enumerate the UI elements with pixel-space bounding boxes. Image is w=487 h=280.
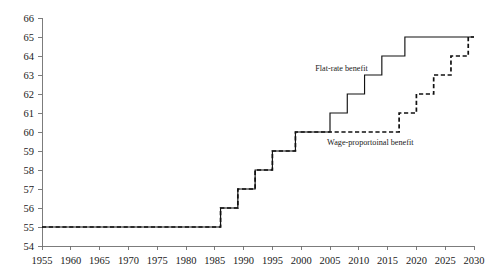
y-tick-label: 56 <box>24 203 35 214</box>
y-tick-label: 62 <box>24 89 35 100</box>
y-tick-label: 57 <box>24 184 35 195</box>
y-tick-label: 58 <box>24 165 35 176</box>
x-tick-label: 1985 <box>204 255 225 266</box>
step-chart: 54555657585960616263646566 1955196019651… <box>0 0 487 280</box>
x-tick-label: 2025 <box>435 255 456 266</box>
x-tick-label: 2015 <box>377 255 398 266</box>
x-tick-label: 2020 <box>406 255 427 266</box>
y-tick-label: 61 <box>24 108 35 119</box>
x-tick-label: 1995 <box>262 255 283 266</box>
y-tick-label: 55 <box>24 222 35 233</box>
y-tick-label: 66 <box>24 13 35 24</box>
series-label: Wage-proportoinal benefit <box>327 138 414 147</box>
series-lines <box>42 37 474 227</box>
x-tick-label: 2005 <box>320 255 341 266</box>
x-tick-label: 1980 <box>176 255 197 266</box>
y-tick-label: 54 <box>24 241 35 252</box>
y-tick-label: 63 <box>24 70 35 81</box>
x-tick-label: 1970 <box>118 255 139 266</box>
x-axis-ticks: 1955196019651970197519801985199019952000… <box>32 246 485 266</box>
y-tick-label: 65 <box>24 32 35 43</box>
y-axis-ticks: 54555657585960616263646566 <box>24 13 43 252</box>
x-tick-label: 2010 <box>348 255 369 266</box>
series-line-solid <box>42 37 474 227</box>
y-tick-label: 64 <box>24 51 35 62</box>
x-tick-label: 1955 <box>32 255 53 266</box>
y-tick-label: 60 <box>24 127 35 138</box>
x-tick-label: 1990 <box>233 255 254 266</box>
x-tick-label: 1975 <box>147 255 168 266</box>
series-line-dashed <box>42 37 474 227</box>
x-tick-label: 1965 <box>89 255 110 266</box>
x-tick-label: 1960 <box>60 255 81 266</box>
y-tick-label: 59 <box>24 146 35 157</box>
x-tick-label: 2030 <box>464 255 485 266</box>
series-label: Flat-rate benefit <box>315 64 368 73</box>
x-tick-label: 2000 <box>291 255 312 266</box>
chart-container: 54555657585960616263646566 1955196019651… <box>0 0 487 280</box>
